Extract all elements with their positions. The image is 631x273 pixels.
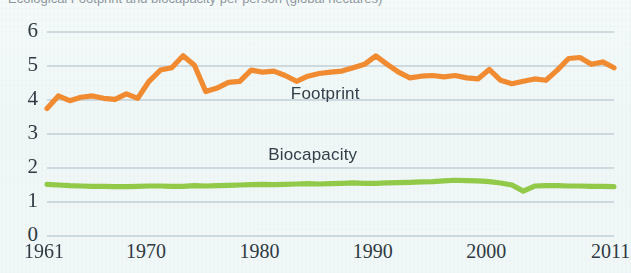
series-label-biocapacity: Biocapacity	[268, 145, 357, 165]
series-line-biocapacity	[47, 180, 614, 191]
y-tick-label-5: 5	[8, 52, 38, 77]
x-tick-label-1980: 1980	[239, 240, 279, 263]
y-tick-label-1: 1	[8, 188, 38, 213]
x-tick-label-1961: 1961	[24, 240, 64, 263]
chart-figure: Ecological Footprint and biocapacity per…	[0, 0, 631, 273]
x-tick-label-2011: 2011	[591, 240, 630, 263]
y-tick-label-3: 3	[8, 120, 38, 145]
x-tick-label-1970: 1970	[126, 240, 166, 263]
y-tick-label-4: 4	[8, 86, 38, 111]
chart-canvas	[0, 0, 631, 273]
y-tick-label-6: 6	[8, 18, 38, 43]
plot-area: 0123456 196119701980199020002011 Footpri…	[0, 0, 631, 273]
gridlines	[47, 32, 614, 236]
x-tick-label-1990: 1990	[353, 240, 393, 263]
y-tick-label-2: 2	[8, 154, 38, 179]
series-label-footprint: Footprint	[291, 84, 360, 104]
x-tick-label-2000: 2000	[466, 240, 506, 263]
